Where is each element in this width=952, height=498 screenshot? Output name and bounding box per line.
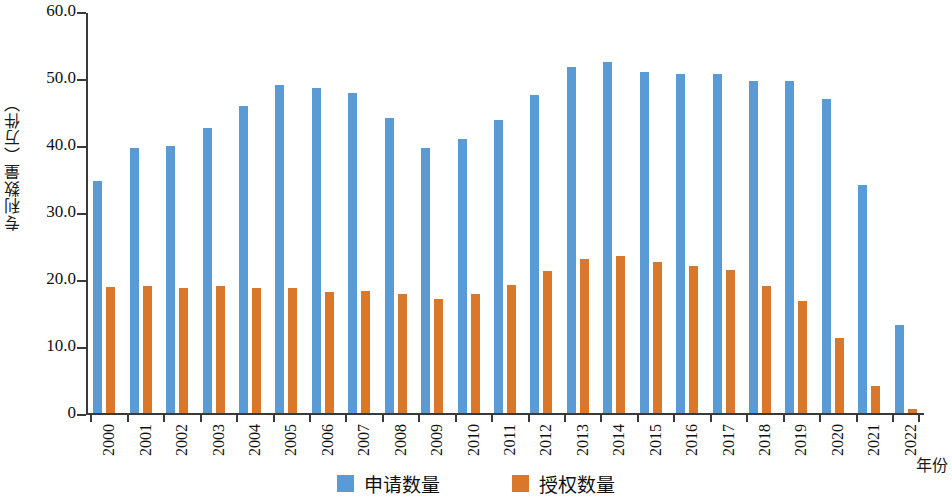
y-axis-tick <box>77 347 86 349</box>
y-axis-tick <box>77 414 86 416</box>
x-axis-tick-label: 2011 <box>501 424 519 455</box>
legend-swatch-orange <box>512 475 529 492</box>
y-axis-tick-label: 10.0 <box>0 336 76 356</box>
x-axis-tick-label: 2016 <box>683 424 701 456</box>
x-axis-tick-label: 2002 <box>173 424 191 456</box>
x-axis-tick-label: 2018 <box>756 424 774 456</box>
x-axis-tick-label: 2019 <box>792 424 810 456</box>
x-axis-tick-label: 2000 <box>100 424 118 456</box>
x-axis-tick-label: 2008 <box>392 424 410 456</box>
x-axis-tick-label: 2003 <box>210 424 228 456</box>
x-axis-tick-label: 2015 <box>647 424 665 456</box>
y-axis-tick-label: 50.0 <box>0 68 76 88</box>
legend-swatch-blue <box>337 475 354 492</box>
y-axis-tick <box>77 12 86 14</box>
y-axis-tick-label: 0 <box>0 403 76 423</box>
x-axis-tick-label: 2014 <box>610 424 628 456</box>
y-axis-tick-label: 20.0 <box>0 269 76 289</box>
y-axis-tick-label: 40.0 <box>0 135 76 155</box>
x-axis-tick-label: 2001 <box>137 424 155 456</box>
y-axis-tick <box>77 146 86 148</box>
x-axis-tick-label: 2007 <box>355 424 373 456</box>
x-axis-tick-label: 2017 <box>720 424 738 456</box>
x-axis-tick-label: 2006 <box>319 424 337 456</box>
y-axis-tick-label: 60.0 <box>0 1 76 21</box>
legend-item-grants[interactable]: 授权数量 <box>512 470 615 497</box>
x-axis-tick-label: 2010 <box>465 424 483 456</box>
x-axis-labels: 2000200120022003200420052006200720082009… <box>86 0 946 498</box>
legend-label: 授权数量 <box>539 470 615 497</box>
x-axis-tick-label: 2013 <box>574 424 592 456</box>
y-axis-tick-label: 30.0 <box>0 202 76 222</box>
x-axis-tick-label: 2009 <box>428 424 446 456</box>
chart-figure: 专利数量（万件） 010.020.030.040.050.060.0 20002… <box>0 0 952 498</box>
x-axis-tick-label: 2020 <box>829 424 847 456</box>
y-axis-tick <box>77 213 86 215</box>
x-axis-tick-label: 2005 <box>282 424 300 456</box>
y-axis-tick <box>77 280 86 282</box>
y-axis-labels: 010.020.030.040.050.060.0 <box>0 0 80 440</box>
y-axis-tick <box>77 79 86 81</box>
legend-label: 申请数量 <box>364 470 440 497</box>
x-axis-tick-label: 2012 <box>537 424 555 456</box>
legend-item-applications[interactable]: 申请数量 <box>337 470 440 497</box>
x-axis-tick-label: 2021 <box>865 424 883 456</box>
x-axis-tick-label: 2004 <box>246 424 264 456</box>
chart-legend: 申请数量授权数量 <box>0 470 952 497</box>
